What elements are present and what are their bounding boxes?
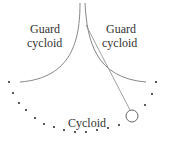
cycloid-label: Cycloid: [68, 116, 106, 130]
left-guard-label-line1: Guard: [30, 22, 60, 36]
left-guard-label-line2: cycloid: [27, 36, 62, 50]
pendulum-bob: [126, 110, 138, 122]
right-guard-label-line1: Guard: [106, 22, 136, 36]
right-guard-label-line2: cycloid: [102, 36, 137, 50]
cycloid-pendulum-diagram: Guard cycloid Guard cycloid Cycloid: [0, 0, 173, 145]
